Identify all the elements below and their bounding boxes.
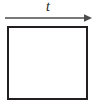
- square-outline: [0, 0, 94, 103]
- square-shape: [8, 27, 87, 99]
- figure-canvas: t: [0, 0, 94, 103]
